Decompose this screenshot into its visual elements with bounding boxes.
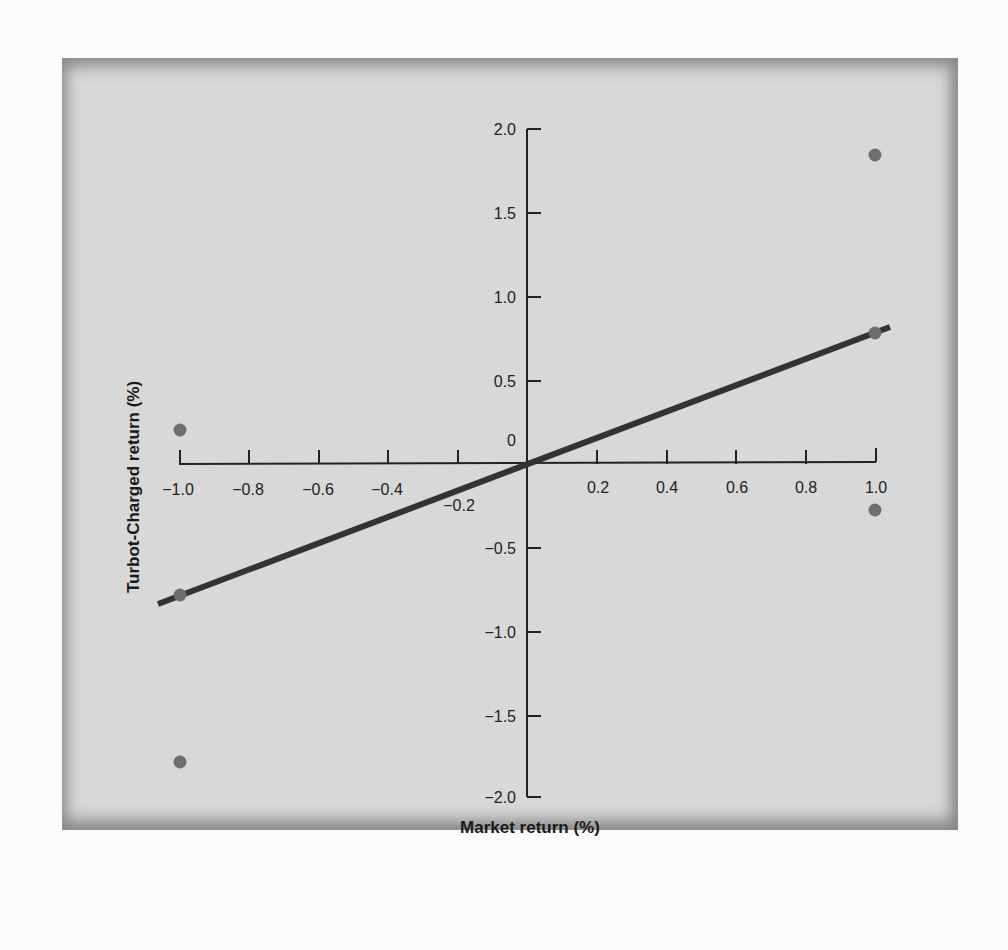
x-tick-label: −1.0 [162, 481, 194, 498]
data-point [869, 327, 882, 340]
x-tick-label: −0.6 [302, 481, 334, 498]
x-tick-label: 0.6 [726, 479, 748, 496]
y-tick-label: −2.0 [484, 789, 516, 806]
data-point [174, 424, 187, 437]
y-tick-label: −1.5 [484, 708, 516, 725]
data-point [869, 504, 882, 517]
y-tick-label: 2.0 [494, 121, 516, 138]
y-tick-label: 0 [507, 432, 516, 449]
x-tick-label: −0.2 [443, 497, 475, 514]
y-tick-label: 1.0 [494, 289, 516, 306]
y-axis-title: Turbot-Charged return (%) [124, 381, 143, 593]
y-tick-label: 1.5 [494, 205, 516, 222]
x-axis-title: Market return (%) [460, 818, 600, 837]
data-point [174, 589, 187, 602]
x-tick-labels: −1.0 −0.8 −0.6 −0.4 −0.2 0.2 0.4 0.6 0.8… [162, 479, 887, 514]
y-tick-label: −1.0 [484, 624, 516, 641]
regression-line [158, 327, 890, 604]
x-tick-label: 0.2 [587, 479, 609, 496]
x-tick-label: 1.0 [865, 479, 887, 496]
scatter-plot: 2.0 1.5 1.0 0.5 0 −0.5 −1.0 −1.5 −2.0 −1… [0, 0, 1008, 950]
data-point [869, 149, 882, 162]
y-tick-label: −0.5 [484, 540, 516, 557]
x-tick-label: −0.4 [371, 481, 403, 498]
x-tick-label: −0.8 [232, 481, 264, 498]
y-tick-label: 0.5 [494, 373, 516, 390]
x-tick-label: 0.4 [656, 479, 678, 496]
x-tick-label: 0.8 [795, 479, 817, 496]
data-point [174, 756, 187, 769]
